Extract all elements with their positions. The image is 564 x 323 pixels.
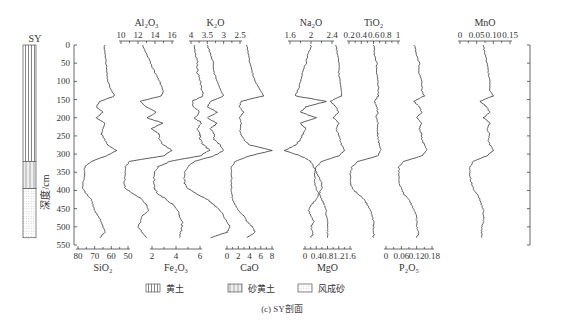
axis-tick-label: 4 bbox=[247, 251, 252, 261]
curve-p2o5 bbox=[398, 45, 427, 238]
depth-axis: 050100150200250300350400450500550 bbox=[57, 40, 78, 250]
axis-title: Al₂O₃ bbox=[134, 17, 158, 28]
axis-tick-label: 0.4 bbox=[356, 30, 368, 40]
axis-tick-label: 1.6 bbox=[344, 251, 356, 261]
column-title: SY bbox=[29, 33, 42, 44]
axis-tick-label: 80 bbox=[74, 251, 84, 261]
axis-tick-label: 1.6 bbox=[284, 30, 296, 40]
axis-tick-label: 14 bbox=[151, 30, 161, 40]
depth-tick-label: 350 bbox=[57, 167, 71, 177]
axis-tick-label: 3.5 bbox=[202, 30, 214, 40]
panel-al2o3: 10121416Al₂O₃ bbox=[117, 17, 178, 238]
axis-tick-label: 12 bbox=[134, 30, 143, 40]
axis-tick-label: 2.5 bbox=[234, 30, 246, 40]
axis-tick-label: 8 bbox=[270, 251, 275, 261]
depth-tick-label: 50 bbox=[61, 58, 71, 68]
curve-sio2 bbox=[82, 45, 116, 238]
axis-tick-label: 6 bbox=[198, 251, 203, 261]
axis-tick-label: 50 bbox=[124, 251, 134, 261]
geochemistry-figure: SY 050100150200250300350400450500550 深度/… bbox=[0, 0, 564, 323]
axis-title: MnO bbox=[474, 17, 495, 28]
curve-k2o bbox=[184, 45, 230, 238]
axis-title: MgO bbox=[317, 262, 338, 273]
axis-tick-label: 0.12 bbox=[409, 251, 425, 261]
stratigraphic-column bbox=[23, 45, 36, 238]
depth-tick-label: 150 bbox=[57, 95, 71, 105]
panel-fe2o3: 246Fe₂O₃ bbox=[150, 45, 210, 273]
axis-title: Na₂O bbox=[300, 17, 322, 28]
curve-mno bbox=[469, 45, 493, 238]
curve-fe2o3 bbox=[153, 45, 209, 238]
axis-tick-label: 10 bbox=[117, 30, 127, 40]
axis-tick-label: 70 bbox=[90, 251, 100, 261]
depth-tick-label: 200 bbox=[57, 113, 71, 123]
legend-swatch bbox=[146, 284, 160, 292]
axis-tick-label: 0.8 bbox=[380, 30, 392, 40]
legend-label: 风成砂 bbox=[318, 283, 345, 294]
panel-na2o: 1.622.4Na₂O bbox=[284, 17, 338, 238]
depth-tick-label: 500 bbox=[57, 222, 71, 232]
panel-p2o5: 00.060.120.18P₂O₅ bbox=[384, 45, 441, 273]
axis-tick-label: 2 bbox=[236, 251, 241, 261]
axis-tick-label: 0.06 bbox=[393, 251, 409, 261]
axis-tick-label: 0 bbox=[384, 251, 389, 261]
legend-label: 黄土 bbox=[166, 283, 184, 294]
stratum-1 bbox=[23, 161, 36, 188]
depth-tick-label: 450 bbox=[57, 204, 71, 214]
axis-tick-label: 0 bbox=[458, 30, 463, 40]
panel-mgo: 00.40.81.21.6MgO bbox=[303, 45, 356, 273]
panel-k2o: 43.532.5K₂O bbox=[184, 17, 246, 238]
axis-title: P₂O₅ bbox=[399, 262, 419, 273]
curve-na2o bbox=[284, 45, 326, 238]
right-frame-ticks bbox=[527, 45, 530, 245]
axis-tick-label: 60 bbox=[107, 251, 117, 261]
axis-title: SiO₂ bbox=[93, 262, 112, 273]
legend: 黄土砂黄土风成砂 bbox=[146, 283, 345, 294]
axis-tick-label: 0.05 bbox=[469, 30, 485, 40]
panel-tio2: 0.20.40.60.81TiO₂ bbox=[343, 17, 400, 238]
axis-tick-label: 16 bbox=[168, 30, 178, 40]
axis-tick-label: 4 bbox=[174, 251, 179, 261]
axis-title: K₂O bbox=[207, 17, 225, 28]
axis-tick-label: 0.18 bbox=[424, 251, 440, 261]
axis-tick-label: 0.6 bbox=[368, 30, 380, 40]
axis-tick-label: 2 bbox=[309, 30, 314, 40]
depth-tick-label: 100 bbox=[57, 76, 71, 86]
axis-tick-label: 0.8 bbox=[322, 251, 334, 261]
axis-tick-label: 0.4 bbox=[311, 251, 323, 261]
axis-title: Fe₂O₃ bbox=[164, 262, 188, 273]
axis-tick-label: 2.4 bbox=[326, 30, 338, 40]
axis-tick-label: 2 bbox=[150, 251, 155, 261]
panel-sio2: 80706050SiO₂ bbox=[74, 45, 134, 273]
curve-tio2 bbox=[350, 45, 381, 238]
axis-tick-label: 0.10 bbox=[485, 30, 501, 40]
depth-tick-label: 400 bbox=[57, 185, 71, 195]
curve-al2o3 bbox=[124, 45, 172, 238]
figure-caption: (c) SY剖面 bbox=[261, 303, 303, 314]
panel-mno: 00.050.100.15MnO bbox=[458, 17, 519, 238]
axis-tick-label: 0.2 bbox=[343, 30, 354, 40]
axis-tick-label: 0 bbox=[225, 251, 230, 261]
depth-axis-label: 深度/cm bbox=[39, 174, 51, 209]
stratum-2 bbox=[23, 189, 36, 238]
legend-label: 砂黄土 bbox=[248, 283, 275, 294]
axis-tick-label: 0 bbox=[303, 251, 308, 261]
depth-tick-label: 300 bbox=[57, 149, 71, 159]
curve-mgo bbox=[314, 45, 344, 238]
chemistry-panels: 80706050SiO₂10121416Al₂O₃246Fe₂O₃43.532.… bbox=[74, 17, 519, 273]
legend-swatch bbox=[298, 284, 312, 292]
depth-tick-label: 550 bbox=[57, 240, 71, 250]
axis-tick-label: 1.2 bbox=[333, 251, 344, 261]
panel-cao: 02468CaO bbox=[225, 45, 275, 273]
depth-tick-label: 0 bbox=[66, 40, 71, 50]
legend-swatch bbox=[228, 284, 242, 292]
axis-title: CaO bbox=[240, 262, 258, 273]
curve-cao bbox=[231, 45, 272, 238]
depth-tick-label: 250 bbox=[57, 131, 71, 141]
axis-tick-label: 0.15 bbox=[502, 30, 518, 40]
axis-tick-label: 3 bbox=[221, 30, 226, 40]
axis-tick-label: 1 bbox=[396, 30, 401, 40]
stratum-0 bbox=[23, 45, 36, 161]
axis-tick-label: 6 bbox=[259, 251, 264, 261]
axis-title: TiO₂ bbox=[364, 17, 383, 28]
